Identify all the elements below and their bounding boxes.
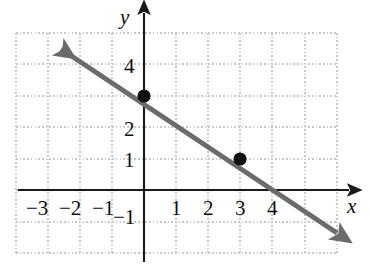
coordinate-plane-svg [0,0,370,268]
data-point-second [233,152,246,165]
y-axis-label: y [120,7,129,28]
y-tick-label-1: 1 [124,150,135,171]
y-tick-label-2: 2 [124,119,135,140]
x-tick-label-3: 3 [235,198,246,219]
grid-lines [16,33,337,253]
data-point-y-intercept [137,89,150,102]
x-tick-label-neg2: −2 [59,198,81,219]
x-tick-label-neg3: −3 [26,198,48,219]
y-tick-label-neg1: −1 [113,207,135,228]
x-tick-label-2: 2 [203,198,214,219]
x-tick-label-neg1: −1 [92,198,114,219]
x-tick-label-4: 4 [267,198,278,219]
y-tick-label-4: 4 [124,56,135,77]
graph-figure: −3 −2 −1 1 2 3 4 4 2 1 −1 y x [0,0,370,268]
x-tick-label-1: 1 [171,198,182,219]
x-axis-label: x [347,196,356,217]
